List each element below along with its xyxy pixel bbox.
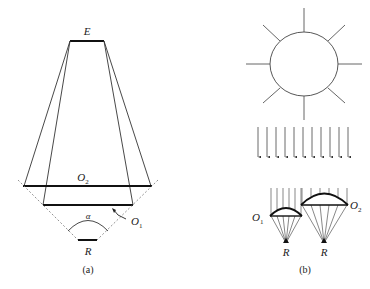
caption-b: (b) bbox=[299, 264, 311, 276]
receiver-2-label: R bbox=[320, 246, 328, 258]
inner-ray-left bbox=[43, 41, 70, 205]
outer-ray-right bbox=[104, 41, 151, 186]
eye-label: E bbox=[83, 25, 91, 37]
receiver-label: R bbox=[84, 245, 92, 257]
objective-1-label-b: O1 bbox=[252, 211, 264, 226]
panel-b: O1 R O2 R bbox=[246, 8, 362, 276]
field-line-left bbox=[18, 180, 78, 240]
field-line-right bbox=[97, 180, 158, 240]
objective-2-label: O2 bbox=[77, 171, 89, 186]
panel-a: E O2 α R O1 (a) bbox=[18, 25, 158, 276]
sun-icon bbox=[246, 8, 362, 120]
outer-ray-left bbox=[24, 41, 70, 186]
objective-1-label: O1 bbox=[131, 215, 143, 230]
caption-a: (a) bbox=[82, 264, 93, 276]
parallel-light-arrows bbox=[258, 127, 348, 157]
objective-2-label-b: O2 bbox=[350, 199, 362, 214]
inner-ray-right bbox=[104, 41, 133, 205]
small-lens-o1: O1 R bbox=[252, 188, 302, 258]
large-lens-o2: O2 R bbox=[301, 188, 362, 258]
receiver-1-label: R bbox=[282, 246, 290, 258]
diagram-canvas: E O2 α R O1 (a) bbox=[0, 0, 370, 289]
angle-arc bbox=[68, 221, 108, 232]
angle-label: α bbox=[86, 211, 91, 221]
